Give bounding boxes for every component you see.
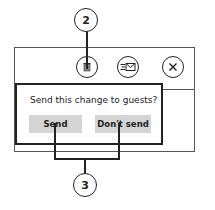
callout-3-stem bbox=[84, 158, 86, 174]
send-change-dialog: Send this change to guests? Send Don't s… bbox=[15, 83, 163, 145]
callout-3: 3 bbox=[73, 173, 97, 197]
callout-2: 2 bbox=[74, 8, 98, 32]
callout-3-bracket bbox=[54, 158, 120, 160]
send-update-button[interactable] bbox=[117, 56, 139, 78]
callout-2-leader bbox=[86, 31, 88, 69]
dialog-prompt: Send this change to guests? bbox=[30, 95, 157, 105]
send-button[interactable]: Send bbox=[29, 115, 82, 133]
reply-email-icon bbox=[120, 62, 136, 72]
dont-send-button[interactable]: Don't send bbox=[95, 115, 151, 133]
close-button[interactable] bbox=[162, 56, 184, 78]
close-icon bbox=[168, 62, 178, 72]
window-divider bbox=[163, 89, 195, 90]
callout-3-leader-right bbox=[118, 123, 120, 159]
callout-3-leader-left bbox=[54, 123, 56, 159]
